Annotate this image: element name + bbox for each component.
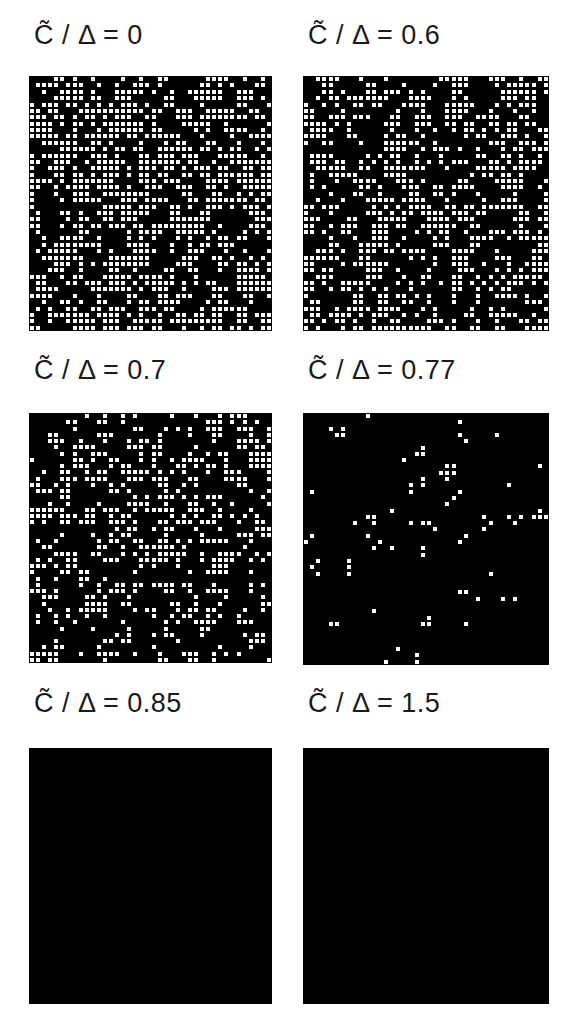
panel-label: C̃ / Δ = 0.7: [34, 355, 166, 386]
panel-label: C̃ / Δ = 0.77: [308, 355, 456, 386]
panel-label: C̃ / Δ = 0.85: [34, 688, 182, 719]
lattice-grid: [29, 413, 272, 663]
lattice-grid: [303, 76, 549, 331]
panel-label: C̃ / Δ = 1.5: [308, 688, 440, 719]
panel-label: C̃ / Δ = 0.6: [308, 20, 440, 51]
lattice-grid: [29, 748, 272, 1004]
panel-label: C̃ / Δ = 0: [34, 20, 143, 51]
lattice-grid: [29, 76, 272, 331]
lattice-grid: [303, 748, 549, 1004]
lattice-grid: [303, 413, 549, 665]
